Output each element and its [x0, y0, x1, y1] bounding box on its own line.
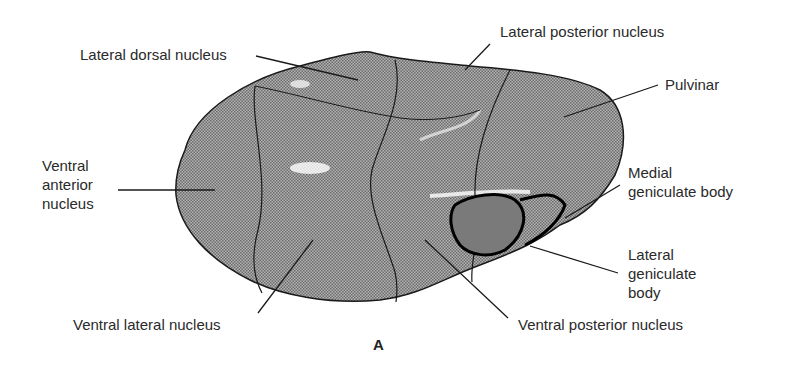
label-lateral-posterior-nucleus: Lateral posterior nucleus	[500, 22, 664, 41]
thalamus-outline	[176, 52, 624, 302]
label-ventral-anterior-nucleus: Ventral anterior nucleus	[42, 156, 94, 213]
label-lateral-dorsal-nucleus: Lateral dorsal nucleus	[80, 45, 227, 64]
label-medial-geniculate-body: Medial geniculate body	[628, 163, 733, 201]
label-ventral-posterior-nucleus: Ventral posterior nucleus	[518, 315, 683, 334]
label-pulvinar: Pulvinar	[665, 75, 719, 94]
label-ventral-lateral-nucleus: Ventral lateral nucleus	[73, 315, 221, 334]
label-lateral-geniculate-body: Lateral geniculate body	[628, 245, 696, 302]
panel-label: A	[373, 336, 384, 353]
